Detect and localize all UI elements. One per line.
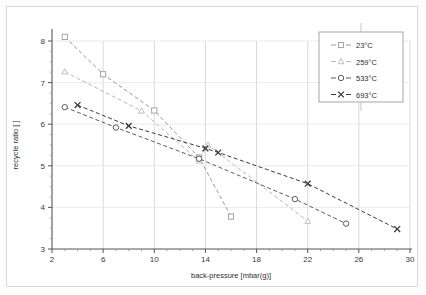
x-tick-label: 2 [50,255,55,264]
y-tick-label: 7 [41,79,46,88]
chart-figure: 26101418222630345678back-pressure [mbar(… [0,0,426,295]
y-tick-label: 4 [41,203,46,212]
x-tick-label: 14 [201,255,210,264]
marker-circle [338,75,343,80]
legend: 23°C259°C533°C693°C [319,23,403,111]
marker-square [62,34,67,39]
chart-canvas: 26101418222630345678back-pressure [mbar(… [0,0,426,295]
legend-label: 259°C [356,58,378,67]
x-tick-label: 22 [303,255,312,264]
legend-label: 533°C [356,74,378,83]
legend-label: 23°C [356,41,373,50]
marker-square [228,214,233,219]
marker-circle [113,125,118,130]
marker-square [101,72,106,77]
y-tick-label: 5 [41,162,46,171]
legend-label: 693°C [356,91,378,100]
x-tick-label: 26 [354,255,363,264]
y-tick-label: 6 [41,120,46,129]
marker-circle [62,104,67,109]
x-axis-title: back-pressure [mbar(g)] [191,271,271,280]
marker-square [338,42,343,47]
x-tick-label: 6 [101,255,106,264]
marker-circle [196,156,201,161]
x-tick-label: 10 [150,255,159,264]
y-tick-label: 8 [41,37,46,46]
x-tick-label: 18 [252,255,261,264]
y-axis-title: recycle ratio [ ] [11,121,20,170]
marker-circle [292,196,297,201]
y-tick-label: 3 [41,245,46,254]
x-tick-label: 30 [406,255,415,264]
marker-circle [343,221,348,226]
marker-square [152,108,157,113]
